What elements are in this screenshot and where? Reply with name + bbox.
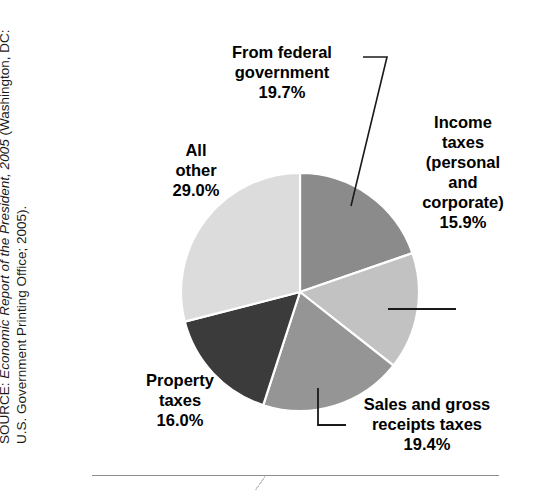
source-note: SOURCE: Economic Report of the President…: [0, 4, 52, 444]
source-title: Economic Report of the President, 2005: [0, 139, 12, 378]
figure-page: SOURCE: Economic Report of the President…: [0, 0, 533, 494]
pie-label-sales-and-gross-receipts-taxes: Sales and gross receipts taxes 19.4%: [337, 394, 517, 454]
bottom-rule-tick: [255, 476, 265, 490]
source-prefix: SOURCE:: [0, 379, 12, 444]
pie-label-property-taxes: Property taxes 16.0%: [118, 370, 242, 430]
pie-label-income-taxes: Income taxes (personal and corporate) 15…: [400, 112, 526, 232]
bottom-divider-rule: [92, 475, 499, 476]
pie-label-all-other: All other 29.0%: [140, 140, 252, 200]
pie-label-from-federal-government: From federal government 19.7%: [196, 42, 368, 102]
